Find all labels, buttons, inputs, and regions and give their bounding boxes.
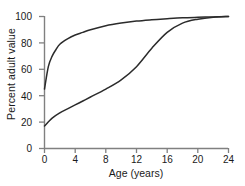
y-tick-label-80: 80 <box>8 38 32 49</box>
x-tick-label-16: 16 <box>155 154 179 165</box>
y-tick-label-100: 100 <box>8 11 32 22</box>
y-axis-ticks <box>39 17 44 149</box>
y-tick-label-60: 60 <box>8 64 32 75</box>
x-tick-label-24: 24 <box>217 154 241 165</box>
general-growth-curve <box>45 17 229 127</box>
x-axis-title: Age (years) <box>44 166 228 180</box>
x-tick-label-20: 20 <box>186 154 210 165</box>
growth-curve-chart: Percent adult value 100 80 60 <box>0 0 245 186</box>
x-tick-label-8: 8 <box>94 154 118 165</box>
neural-growth-curve <box>45 17 229 90</box>
x-tick-label-12: 12 <box>125 154 149 165</box>
y-tick-label-0: 0 <box>8 143 32 154</box>
x-tick-label-4: 4 <box>63 154 87 165</box>
x-tick-label-0: 0 <box>33 154 57 165</box>
y-tick-label-40: 40 <box>8 91 32 102</box>
y-tick-label-20: 20 <box>8 117 32 128</box>
